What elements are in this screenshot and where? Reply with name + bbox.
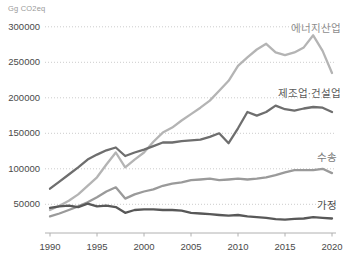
x-tick-label: 2000 <box>129 241 159 252</box>
chart-canvas <box>0 0 350 271</box>
y-tick-label: 250000 <box>0 56 40 67</box>
y-tick-label: 300000 <box>0 21 40 32</box>
series-label-manufacturing-construction: 제조업·건설업 <box>278 85 342 100</box>
y-tick-label: 200000 <box>0 92 40 103</box>
x-tick-label: 2020 <box>317 241 347 252</box>
x-tick-label: 2010 <box>223 241 253 252</box>
series-label-energy-industry: 에너지산업 <box>291 20 341 35</box>
series-line-energy-industry <box>50 35 332 210</box>
y-tick-label: 150000 <box>0 127 40 138</box>
series-line-residential <box>50 204 332 220</box>
y-tick-label: 100000 <box>0 163 40 174</box>
x-tick-label: 2005 <box>176 241 206 252</box>
emissions-line-chart: Gg CO2eq 에너지산업 제조업·건설업 수송 가정 50000100000… <box>0 0 350 271</box>
series-line-manufacturing-construction <box>50 106 332 189</box>
series-line-transport <box>50 169 332 217</box>
axis-unit-label: Gg CO2eq <box>8 4 45 13</box>
x-tick-label: 1990 <box>35 241 65 252</box>
series-label-transport: 수송 <box>317 149 337 164</box>
x-tick-label: 2015 <box>270 241 300 252</box>
y-tick-label: 50000 <box>0 198 40 209</box>
series-label-residential: 가정 <box>317 197 337 212</box>
x-tick-label: 1995 <box>82 241 112 252</box>
